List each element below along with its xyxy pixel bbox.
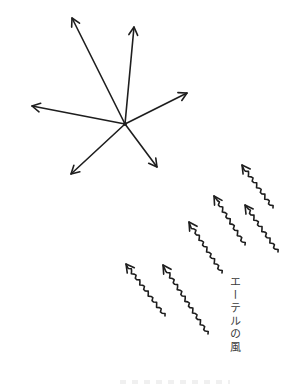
arrow-up [125,27,138,124]
diagram-drawing [0,0,287,388]
faint-bleed-marks [120,380,230,384]
wavy-arrow [245,205,278,252]
arrow-lower-right [125,124,157,167]
arrow-upper-left [72,18,125,124]
wavy-arrow [214,196,245,245]
ether-wind-arrows [126,165,278,334]
arrow-lower-left [71,124,125,174]
radiating-arrows-star [32,18,187,174]
wavy-arrow [126,264,165,316]
diagram-canvas: エーテルの風 [0,0,287,388]
ether-wind-label: エーテルの風 [226,276,242,354]
wavy-arrow [242,165,273,208]
arrow-left [32,103,125,124]
wavy-arrow [163,265,208,334]
wavy-arrow [189,222,222,273]
center-dot [123,122,127,126]
arrow-right [125,93,187,124]
